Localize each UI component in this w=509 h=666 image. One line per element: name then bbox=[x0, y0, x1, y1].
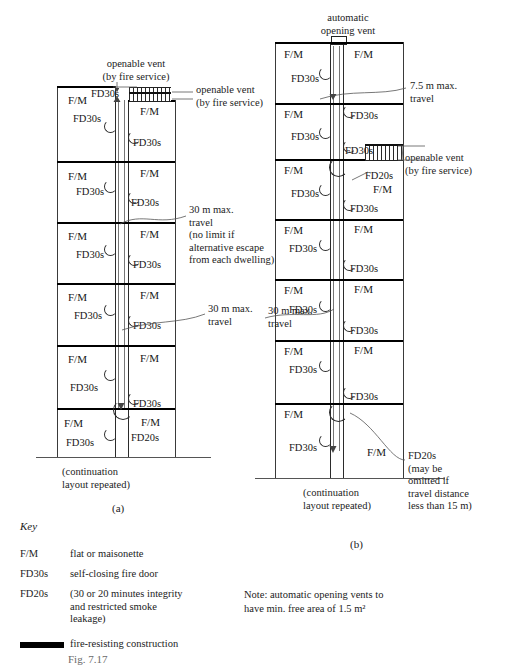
diagram-b-top-vent-label: automaticopening vent bbox=[293, 12, 403, 37]
door-arc-b-lobby-1 bbox=[329, 158, 348, 177]
door-arc-b-r1 bbox=[343, 105, 356, 118]
diagram-b-fd20s-callout: FD20s(may beomitted iftravel distanceles… bbox=[408, 450, 472, 513]
key-desc-1: self-closing fire door bbox=[70, 568, 158, 581]
diagram-a-caption: (a) bbox=[112, 502, 124, 514]
door-arc-a-l2 bbox=[104, 180, 117, 193]
diagram-a-outer-wall-left bbox=[57, 86, 58, 458]
diagram-a-floor-4-left-unit: F/M bbox=[68, 354, 87, 365]
diagram-a-floor-line-4 bbox=[57, 345, 175, 347]
door-arc-a-r4 bbox=[128, 314, 141, 327]
diagram-b-floor-0-left-unit: F/M bbox=[284, 49, 303, 60]
door-arc-b-lobby-2 bbox=[329, 403, 348, 422]
diagram-a-floor-line-2 bbox=[57, 222, 175, 224]
diagram-a-floor-5-right-unit: F/M bbox=[141, 417, 160, 428]
diagram-b-fm-extra: F/M bbox=[373, 184, 392, 195]
diagram-a-floor-0-left-unit: F/M bbox=[68, 95, 87, 106]
diagram-a-outer-wall-right bbox=[175, 100, 176, 458]
diagram-a-stair-midline bbox=[129, 92, 171, 94]
door-arc-a-r1 bbox=[128, 131, 141, 144]
door-arc-b-l7 bbox=[319, 434, 332, 447]
door-arc-b-r2 bbox=[343, 140, 356, 153]
diagram-a-floor-3-right-unit: F/M bbox=[140, 290, 159, 301]
diagram-a-floor-5-left-unit: F/M bbox=[64, 418, 83, 429]
diagram-a-floor-1-left-door: FD30s bbox=[76, 186, 104, 197]
key-desc-2: (30 or 20 minutes integrityand restricte… bbox=[70, 588, 183, 626]
diagram-a-stair-hatch bbox=[129, 87, 171, 102]
door-arc-b-r3 bbox=[343, 198, 356, 211]
figure-note: Note: automatic opening vents tohave min… bbox=[244, 588, 383, 616]
key-term-0: F/M bbox=[20, 548, 38, 561]
diagram-b-floor-1-left-door: FD30s bbox=[291, 131, 319, 142]
door-arc-b-l4 bbox=[319, 238, 332, 251]
diagram-b-floor-0-right-unit: F/M bbox=[354, 49, 373, 60]
diagram-a-floor-4-right-unit: F/M bbox=[140, 353, 159, 364]
diagram-b-floor-3-left-unit: F/M bbox=[284, 225, 303, 236]
diagram-b-floor-4-right-unit: F/M bbox=[354, 284, 373, 295]
diagram-b-floor-line-0 bbox=[275, 42, 403, 44]
diagram-b-travel-shaft bbox=[333, 46, 340, 451]
diagram-b-floor-line-1 bbox=[275, 103, 403, 105]
diagram-b-floor-line-4 bbox=[275, 279, 403, 281]
diagram-a-floor-3-left-unit: F/M bbox=[68, 292, 87, 303]
diagram-a-floor-4-left-door: FD30s bbox=[70, 382, 98, 393]
diagram-a-floor-2-right-unit: F/M bbox=[140, 229, 159, 240]
diagram-b-floor-2-left-unit: F/M bbox=[284, 165, 303, 176]
diagram-b-floor-4-left-unit: F/M bbox=[284, 285, 303, 296]
door-arc-a-lobby bbox=[113, 400, 133, 420]
diagram-b-travel-note-2: 30 m max.travel bbox=[268, 305, 313, 330]
diagram-a-floor-line-1 bbox=[57, 161, 175, 163]
key-term-1: FD30s bbox=[20, 568, 48, 581]
diagram-b-floor-line-5 bbox=[275, 340, 403, 342]
diagram-b-floor-5-right-unit: F/M bbox=[354, 345, 373, 356]
diagram-b-outer-wall-right bbox=[403, 42, 404, 479]
diagram-b-fd20s-mid: FD20s bbox=[365, 170, 393, 181]
figure-bottom-caption: Fig. 7.17 bbox=[68, 653, 107, 666]
diagram-b-floor-6-right-unit: F/M bbox=[367, 447, 386, 458]
door-arc-a-l5 bbox=[104, 368, 117, 381]
key-desc-0: flat or maisonette bbox=[70, 548, 143, 561]
diagram-a-floor-1-left-unit: F/M bbox=[68, 171, 87, 182]
key-term-2: FD20s bbox=[20, 588, 48, 601]
door-arc-b-l6 bbox=[319, 359, 332, 372]
door-arc-a-r2 bbox=[128, 191, 141, 204]
diagram-b-floor-6-left-unit: F/M bbox=[284, 409, 303, 420]
diagram-b-floor-2-left-door: FD30s bbox=[291, 188, 319, 199]
key-title: Key bbox=[20, 520, 37, 533]
diagram-a-floor-3-left-door: FD30s bbox=[74, 310, 102, 321]
door-arc-a-l4 bbox=[104, 303, 117, 316]
door-arc-a-l6 bbox=[104, 428, 117, 441]
diagram-a-stair-door: FD30s bbox=[91, 88, 119, 99]
diagram-b-caption: (b) bbox=[350, 538, 363, 550]
diagram-b-floor-1-left-unit: F/M bbox=[284, 109, 303, 120]
diagram-a-floor-2-left-unit: F/M bbox=[68, 231, 87, 242]
door-arc-a-r3 bbox=[128, 253, 141, 266]
diagram-a-vent-right-label: openable vent(by fire service) bbox=[196, 84, 263, 109]
diagram-a-floor-line-3 bbox=[57, 283, 175, 285]
diagram-a-base-line bbox=[36, 457, 211, 458]
door-arc-b-l5 bbox=[319, 299, 332, 312]
door-arc-b-l1 bbox=[319, 67, 332, 80]
diagram-a-travel-shaft bbox=[118, 100, 125, 410]
diagram-a-floor-5-left-door: FD30s bbox=[66, 437, 94, 448]
door-arc-a-l1 bbox=[104, 120, 117, 133]
door-arc-b-r5 bbox=[343, 319, 356, 332]
door-arc-b-l2 bbox=[319, 126, 332, 139]
door-arc-b-r6 bbox=[343, 386, 356, 399]
key-desc-3: fire-resisting construction bbox=[70, 638, 178, 651]
diagram-a-continuation-note: (continuationlayout repeated) bbox=[62, 466, 130, 491]
diagram-b-floor-5-left-door: FD30s bbox=[289, 364, 317, 375]
door-arc-a-l3 bbox=[104, 243, 117, 256]
door-arc-b-l3 bbox=[319, 183, 332, 196]
diagram-a-floor-0-left-door: FD30s bbox=[73, 113, 101, 124]
diagram-b-floor-0-left-door: FD30s bbox=[291, 73, 319, 84]
diagram-a-travel-note-2: 30 m max.travel bbox=[208, 303, 253, 328]
diagram-a-floor-5-right-door: FD20s bbox=[131, 432, 159, 443]
diagram-b-floor-6-left-door: FD30s bbox=[289, 442, 317, 453]
diagram-b-floor-5-left-unit: F/M bbox=[284, 346, 303, 357]
diagram-b-floor-line-3 bbox=[275, 219, 403, 221]
diagram-a-floor-0-right-unit: F/M bbox=[140, 106, 159, 117]
diagram-b-vent-right-label: openable vent(by fire service) bbox=[405, 152, 472, 177]
key-swatch-fire-resisting bbox=[20, 642, 64, 648]
diagram-b-travel-note: 7.5 m max.travel bbox=[410, 80, 457, 105]
